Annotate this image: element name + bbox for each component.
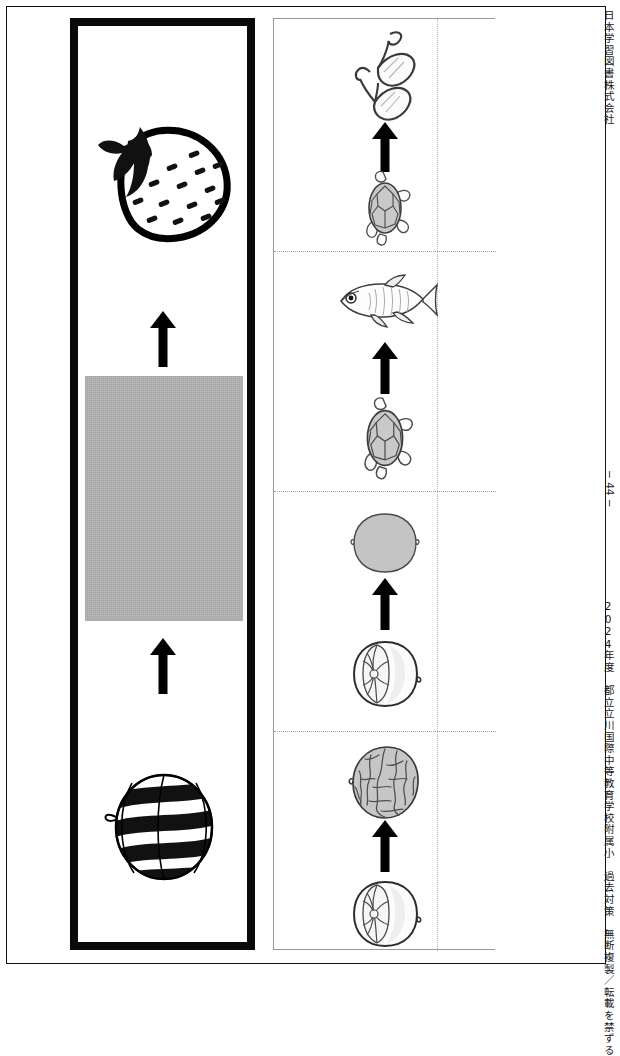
- sequence-question-panel: [70, 18, 255, 950]
- walnut-kernel-cell: [274, 632, 495, 716]
- arrow-up-icon: [372, 342, 398, 394]
- page-number: − 44 −: [604, 470, 616, 508]
- glasses-icon: [342, 28, 428, 132]
- hidden-answer-box[interactable]: [85, 376, 243, 621]
- turtle-cell: [274, 167, 495, 249]
- copyright-credit: 2024年度 都立立川国際中等教育学校附属小 過去対策 無断複製／転載を禁ずる: [601, 600, 616, 1056]
- arrow-up-icon: [150, 638, 176, 694]
- strawberry-cell: [78, 104, 247, 254]
- walnut-shell-cell: [274, 740, 495, 826]
- fish-icon: [331, 271, 439, 331]
- question-arrow-upper: [78, 311, 247, 367]
- turtle-icon: [351, 394, 419, 482]
- answer-choices-panel: [273, 18, 495, 950]
- choice-3-arrow: [274, 576, 495, 632]
- question-panel-inner-border: [77, 25, 248, 943]
- strawberry-icon: [88, 109, 238, 249]
- walnut-kernel-icon: [345, 877, 425, 951]
- arrow-up-icon: [372, 820, 398, 872]
- publisher-name: 日本学習図書株式会社: [601, 10, 616, 126]
- watermelon-icon: [98, 761, 228, 891]
- fish-cell: [274, 258, 495, 344]
- turtle-icon: [354, 168, 416, 248]
- watermelon-cell: [78, 756, 247, 896]
- arrow-up-icon: [372, 578, 398, 630]
- choice-4[interactable]: [274, 732, 495, 951]
- walnut-smooth-icon: [348, 510, 422, 576]
- choice-3[interactable]: [274, 492, 495, 730]
- choice-2-arrow: [274, 340, 495, 396]
- arrow-up-icon: [372, 122, 398, 172]
- walnut-kernel-icon: [345, 637, 425, 711]
- choice-2[interactable]: [274, 252, 495, 490]
- walnut-smooth-cell: [274, 506, 495, 580]
- question-arrow-lower: [78, 638, 247, 694]
- walnut-kernel-cell: [274, 872, 495, 956]
- turtle-cell: [274, 392, 495, 484]
- choice-4-arrow: [274, 818, 495, 874]
- arrow-up-icon: [150, 311, 176, 367]
- walnut-shell-icon: [345, 743, 425, 823]
- choice-1[interactable]: [274, 19, 495, 249]
